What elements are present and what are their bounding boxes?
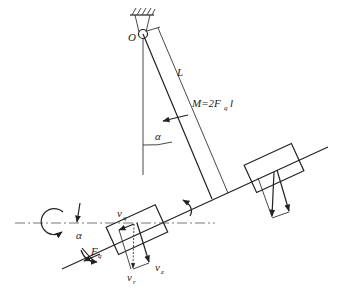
- svg-text:l: l: [230, 97, 233, 109]
- svg-text:v: v: [155, 261, 160, 273]
- svg-text:F: F: [90, 245, 98, 257]
- mechanics-diagram: O L M=2F q l α: [0, 0, 342, 296]
- rotation-arrow-middle: [183, 200, 191, 216]
- svg-text:M=2F: M=2F: [191, 97, 221, 109]
- svg-text:α: α: [76, 229, 82, 241]
- velocity-r-arrow: [133, 224, 134, 268]
- svg-text:r: r: [133, 278, 136, 286]
- pivot-label: O: [128, 31, 136, 43]
- svg-text:L: L: [176, 66, 183, 78]
- left-velocity-vectors: v q v r v z: [117, 207, 164, 286]
- moment-annotation: M=2F q l: [163, 97, 233, 121]
- svg-text:z: z: [160, 268, 164, 276]
- angle-alpha-lower: α: [76, 203, 82, 241]
- svg-text:v: v: [117, 207, 122, 219]
- velocity-q-arrow: [119, 224, 134, 230]
- pendulum-rod: [143, 34, 212, 199]
- moment-arrow: [163, 115, 188, 121]
- velocity-z-arrow: [137, 223, 149, 262]
- length-dimension: L: [147, 27, 228, 193]
- svg-text:v: v: [127, 271, 132, 283]
- svg-text:q: q: [123, 214, 127, 222]
- svg-text:q: q: [224, 104, 228, 112]
- left-wheel-box: [106, 205, 168, 255]
- angle-alpha-upper: α: [143, 130, 172, 145]
- svg-text:q: q: [98, 252, 102, 260]
- rotation-arrow-left: [41, 209, 63, 235]
- svg-text:α: α: [155, 130, 161, 142]
- ceiling-support: [130, 8, 155, 32]
